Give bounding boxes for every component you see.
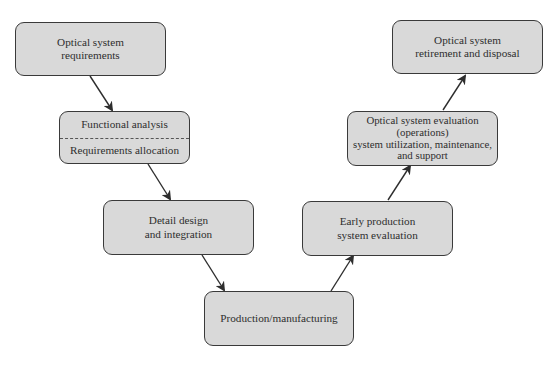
box-optical-system-requirements: Optical system requirements	[15, 22, 166, 76]
box-line: requirements	[61, 49, 119, 63]
box-line: system evaluation	[337, 229, 417, 243]
arrow-requirements-to-functional	[90, 76, 112, 110]
box-line: Early production	[340, 215, 416, 229]
box-line: Functional analysis	[81, 118, 168, 132]
box-operations-evaluation: Optical system evaluation (operations) s…	[347, 111, 498, 166]
box-line: and integration	[145, 228, 212, 242]
arrow-operations-to-retirement	[443, 76, 465, 110]
arrow-detail-to-production	[202, 255, 224, 290]
box-functional-analysis: Functional analysis Requirements allocat…	[59, 111, 190, 164]
arrow-early-eval-to-operations	[388, 166, 410, 200]
box-line: Production/manufacturing	[220, 312, 337, 326]
functional-analysis-section: Functional analysis	[60, 112, 189, 138]
box-line: Optical system	[434, 34, 501, 48]
arrow-production-to-early-eval	[331, 256, 353, 291]
box-retirement-disposal: Optical system retirement and disposal	[392, 20, 543, 74]
box-line: Requirements allocation	[70, 144, 179, 158]
arrow-functional-to-detail	[148, 164, 170, 199]
box-line: and support	[397, 150, 448, 162]
box-production-manufacturing: Production/manufacturing	[204, 291, 354, 346]
box-line: (operations)	[396, 127, 448, 139]
requirements-allocation-section: Requirements allocation	[60, 139, 189, 163]
box-line: retirement and disposal	[415, 47, 519, 61]
box-line: Optical system	[57, 36, 124, 50]
box-detail-design: Detail design and integration	[103, 200, 254, 255]
box-line: Detail design	[149, 214, 208, 228]
box-early-production-evaluation: Early production system evaluation	[302, 201, 453, 256]
